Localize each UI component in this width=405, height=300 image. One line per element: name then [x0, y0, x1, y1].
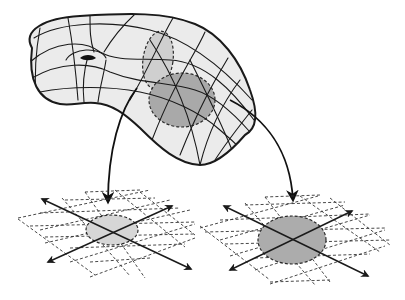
coordinate-plane-right	[200, 195, 390, 285]
coordinate-plane-left	[18, 190, 195, 278]
manifold-chart-diagram	[0, 0, 405, 300]
manifold-surface	[30, 14, 256, 165]
